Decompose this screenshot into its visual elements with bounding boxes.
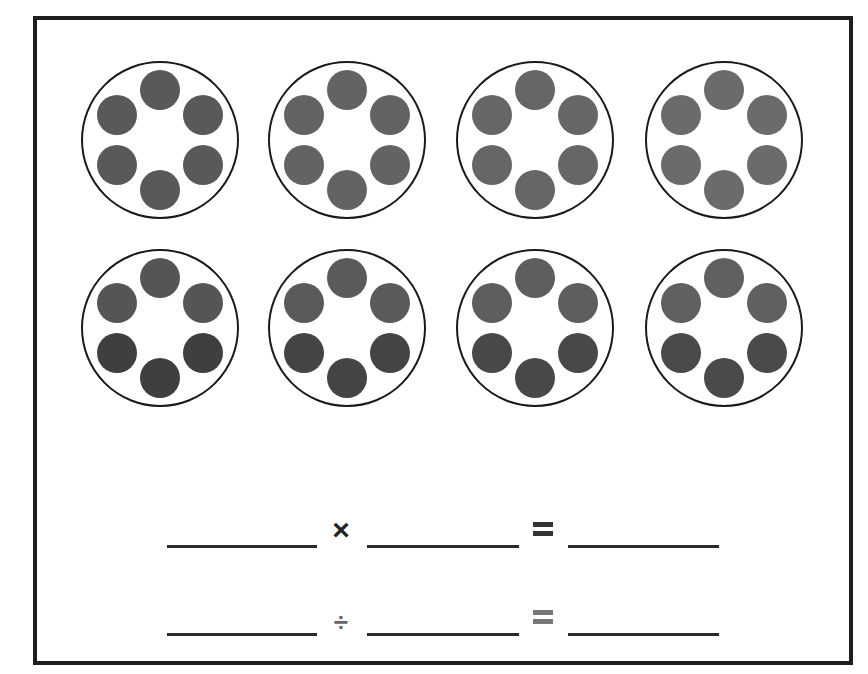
- counter-dot: [515, 358, 555, 398]
- dot-group-circle: [81, 249, 239, 407]
- counter-dot: [472, 333, 512, 373]
- counter-dot: [661, 283, 701, 323]
- counter-dot: [97, 145, 137, 185]
- counter-dot: [747, 283, 787, 323]
- answer-blank[interactable]: [167, 545, 317, 548]
- counter-dot: [472, 145, 512, 185]
- dot-group-circle: [268, 61, 426, 219]
- counter-dot: [327, 70, 367, 110]
- counter-dot: [704, 358, 744, 398]
- counter-dot: [284, 333, 324, 373]
- answer-blank[interactable]: [568, 545, 719, 548]
- counter-dot: [284, 95, 324, 135]
- counter-dot: [704, 170, 744, 210]
- answer-blank[interactable]: [367, 545, 519, 548]
- answer-blank[interactable]: [167, 633, 317, 636]
- counter-dot: [140, 258, 180, 298]
- counter-dot: [747, 145, 787, 185]
- counter-dot: [472, 283, 512, 323]
- counter-dot: [140, 70, 180, 110]
- counter-dot: [704, 258, 744, 298]
- dot-group-circle: [456, 61, 614, 219]
- dot-group-circle: [268, 249, 426, 407]
- counter-dot: [558, 95, 598, 135]
- counter-dot: [661, 333, 701, 373]
- counter-dot: [370, 333, 410, 373]
- divide-sign: ÷: [326, 609, 356, 635]
- counter-dot: [661, 95, 701, 135]
- counter-dot: [284, 145, 324, 185]
- counter-dot: [327, 258, 367, 298]
- dot-group-circle: [645, 61, 803, 219]
- counter-dot: [97, 333, 137, 373]
- counter-dot: [370, 283, 410, 323]
- counter-dot: [284, 283, 324, 323]
- dot-group-circle: [81, 61, 239, 219]
- counter-dot: [704, 70, 744, 110]
- counter-dot: [515, 70, 555, 110]
- counter-dot: [183, 333, 223, 373]
- counter-dot: [140, 358, 180, 398]
- equals-sign: [533, 610, 553, 626]
- counter-dot: [515, 170, 555, 210]
- counter-dot: [747, 95, 787, 135]
- multiply-sign: ×: [326, 515, 356, 545]
- counter-dot: [558, 145, 598, 185]
- counter-dot: [661, 145, 701, 185]
- counter-dot: [558, 333, 598, 373]
- counter-dot: [97, 283, 137, 323]
- answer-blank[interactable]: [367, 633, 519, 636]
- counter-dot: [370, 145, 410, 185]
- answer-blank[interactable]: [568, 633, 719, 636]
- counter-dot: [747, 333, 787, 373]
- counter-dot: [327, 170, 367, 210]
- equals-sign: [533, 522, 553, 538]
- counter-dot: [370, 95, 410, 135]
- counter-dot: [558, 283, 598, 323]
- counter-dot: [183, 145, 223, 185]
- counter-dot: [472, 95, 512, 135]
- counter-dot: [183, 283, 223, 323]
- counter-dot: [97, 95, 137, 135]
- counter-dot: [183, 95, 223, 135]
- counter-dot: [327, 358, 367, 398]
- dot-group-circle: [645, 249, 803, 407]
- dot-group-circle: [456, 249, 614, 407]
- counter-dot: [140, 170, 180, 210]
- counter-dot: [515, 258, 555, 298]
